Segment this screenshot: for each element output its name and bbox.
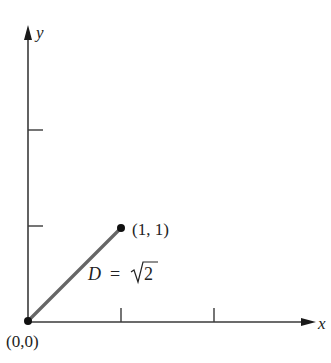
distance-label: D = 2 bbox=[87, 262, 158, 284]
x-axis-arrowhead-icon bbox=[301, 318, 316, 326]
y-axis-arrowhead-icon bbox=[24, 25, 32, 40]
distance-equals: = bbox=[110, 264, 120, 284]
origin-point bbox=[24, 317, 32, 325]
origin-label: (0,0) bbox=[6, 332, 39, 351]
point-1-1 bbox=[117, 224, 125, 232]
point-1-1-label: (1, 1) bbox=[132, 220, 169, 239]
x-axis-label: x bbox=[317, 314, 326, 333]
x-axis: x bbox=[28, 308, 326, 333]
y-axis: y bbox=[24, 23, 44, 322]
distance-variable: D bbox=[87, 264, 101, 284]
coordinate-diagram: y x (0,0) (1, 1) D = 2 bbox=[0, 0, 331, 363]
distance-radicand: 2 bbox=[144, 264, 153, 284]
distance-segment bbox=[28, 228, 121, 321]
y-axis-label: y bbox=[34, 23, 44, 42]
